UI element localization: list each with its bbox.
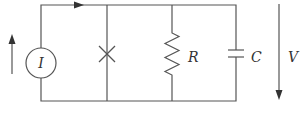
resistor-symbol (165, 5, 179, 101)
bottom-wire (41, 57, 236, 101)
voltage-label: V (288, 49, 300, 65)
resistor-label: R (187, 49, 199, 65)
top-wire (41, 5, 236, 50)
capacitor-label: C (251, 49, 262, 65)
circuit-diagram: I R C V (0, 0, 303, 116)
current-source-label: I (37, 55, 44, 71)
current-arrow-up-icon (9, 34, 16, 44)
current-flow-arrow-icon (74, 2, 84, 9)
voltage-arrow-down-icon (276, 90, 283, 100)
